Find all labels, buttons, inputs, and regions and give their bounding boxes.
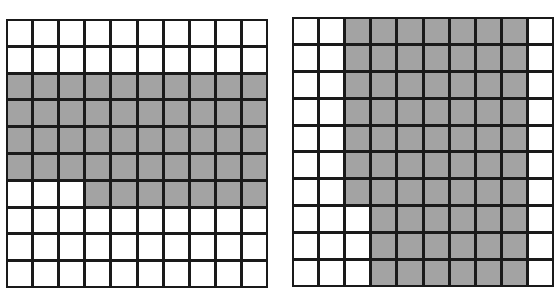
shaded-cell [398, 234, 421, 258]
shaded-cell [477, 261, 500, 285]
shaded-cell [372, 180, 395, 204]
shaded-cell [372, 234, 395, 258]
shaded-cell [503, 180, 526, 204]
shaded-cell [503, 127, 526, 151]
shaded-cell [112, 128, 135, 152]
unshaded-cell [320, 234, 343, 258]
shaded-cell [477, 46, 500, 70]
unshaded-cell [294, 100, 317, 124]
shaded-cell [34, 128, 57, 152]
unshaded-cell [294, 234, 317, 258]
unshaded-cell [60, 182, 83, 206]
shaded-cell [398, 180, 421, 204]
unshaded-cell [294, 19, 317, 43]
shaded-cell [112, 182, 135, 206]
unshaded-cell [8, 21, 31, 45]
shaded-cell [503, 100, 526, 124]
unshaded-cell [86, 21, 109, 45]
shaded-cell [346, 19, 369, 43]
shaded-cell [112, 101, 135, 125]
shaded-cell [451, 46, 474, 70]
shaded-cell [8, 155, 31, 179]
shaded-cell [398, 46, 421, 70]
shaded-cell [372, 127, 395, 151]
shaded-cell [477, 180, 500, 204]
unshaded-cell [529, 234, 552, 258]
shaded-cell [165, 75, 188, 99]
shaded-cell [477, 100, 500, 124]
shaded-cell [398, 127, 421, 151]
unshaded-cell [34, 182, 57, 206]
unshaded-cell [34, 209, 57, 233]
shaded-cell [425, 234, 448, 258]
unshaded-cell [86, 48, 109, 72]
unshaded-cell [60, 262, 83, 286]
shaded-cell [191, 128, 214, 152]
unshaded-cell [217, 262, 240, 286]
shaded-cell [477, 127, 500, 151]
shaded-cell [217, 182, 240, 206]
shaded-cell [451, 180, 474, 204]
shaded-cell [425, 153, 448, 177]
shaded-cell [372, 100, 395, 124]
unshaded-cell [529, 207, 552, 231]
unshaded-cell [346, 207, 369, 231]
unshaded-cell [191, 209, 214, 233]
shaded-cell [503, 46, 526, 70]
unshaded-cell [8, 262, 31, 286]
shaded-cell [477, 234, 500, 258]
shaded-cell [425, 207, 448, 231]
unshaded-cell [294, 207, 317, 231]
shaded-cell [372, 19, 395, 43]
shaded-cell [398, 73, 421, 97]
unshaded-cell [34, 21, 57, 45]
unshaded-cell [165, 209, 188, 233]
unshaded-cell [294, 73, 317, 97]
unshaded-cell [217, 209, 240, 233]
unshaded-cell [139, 209, 162, 233]
unshaded-cell [294, 46, 317, 70]
shaded-cell [191, 155, 214, 179]
unshaded-cell [112, 209, 135, 233]
shaded-cell [217, 75, 240, 99]
shaded-cell [503, 153, 526, 177]
unshaded-cell [191, 21, 214, 45]
shaded-cell [60, 128, 83, 152]
shaded-cell [425, 261, 448, 285]
shaded-cell [165, 182, 188, 206]
unshaded-cell [529, 73, 552, 97]
shaded-cell [139, 101, 162, 125]
shaded-cell [451, 261, 474, 285]
shaded-cell [477, 73, 500, 97]
unshaded-cell [529, 100, 552, 124]
shaded-cell [451, 153, 474, 177]
unshaded-cell [320, 153, 343, 177]
unshaded-cell [34, 235, 57, 259]
shaded-cell [217, 101, 240, 125]
unshaded-cell [529, 127, 552, 151]
unshaded-cell [191, 235, 214, 259]
unshaded-cell [529, 180, 552, 204]
unshaded-cell [112, 48, 135, 72]
unshaded-cell [217, 235, 240, 259]
shaded-cell [372, 46, 395, 70]
shaded-cell [243, 101, 266, 125]
shaded-cell [346, 100, 369, 124]
hundred-grid-right [292, 17, 554, 287]
shaded-cell [503, 19, 526, 43]
unshaded-cell [165, 262, 188, 286]
unshaded-cell [294, 261, 317, 285]
shaded-cell [503, 261, 526, 285]
hundred-grid-left [6, 19, 268, 288]
shaded-cell [372, 207, 395, 231]
unshaded-cell [8, 209, 31, 233]
shaded-cell [60, 155, 83, 179]
unshaded-cell [243, 21, 266, 45]
shaded-cell [217, 128, 240, 152]
unshaded-cell [320, 180, 343, 204]
shaded-cell [425, 73, 448, 97]
shaded-cell [346, 127, 369, 151]
shaded-cell [425, 180, 448, 204]
shaded-cell [112, 155, 135, 179]
unshaded-cell [165, 235, 188, 259]
